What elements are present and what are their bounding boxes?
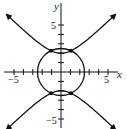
y-tick-label-neg5: −5	[46, 115, 57, 126]
chart-plot: x y −5 5 5 −5	[0, 0, 127, 129]
intersection-dot	[69, 91, 73, 95]
x-axis-label: x	[116, 68, 122, 80]
intersection-dot	[49, 91, 53, 95]
y-axis-label: y	[53, 0, 59, 12]
intersection-dot	[49, 49, 53, 53]
x-tick-label-neg5: −5	[8, 74, 19, 85]
intersection-dot	[69, 49, 73, 53]
y-tick-label-5: 5	[51, 20, 56, 31]
axes	[4, 3, 118, 128]
x-tick-label-5: 5	[104, 74, 109, 85]
